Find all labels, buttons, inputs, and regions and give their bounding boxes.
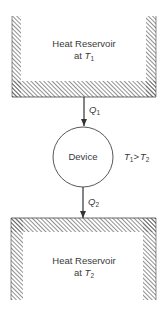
heat-engine-diagram: Heat Reservoir at T1 Q1 Device T1>T2 Q2 … (0, 0, 168, 314)
heat-in-arrow: Q1 (84, 97, 100, 126)
temperature-condition: T1>T2 (124, 151, 150, 163)
heat-out-label: Q2 (88, 196, 99, 208)
hot-reservoir-floor (12, 81, 156, 97)
cold-reservoir: Heat Reservoir at T2 (11, 218, 156, 300)
cold-reservoir-left-wall (11, 218, 23, 300)
device-label: Device (68, 151, 97, 162)
cold-reservoir-title: Heat Reservoir (52, 255, 115, 266)
heat-in-label: Q1 (89, 104, 100, 116)
hot-reservoir-temp: at T1 (74, 50, 94, 62)
cold-reservoir-right-wall (143, 218, 156, 300)
cold-reservoir-temp: at T2 (74, 267, 94, 279)
hot-reservoir-title: Heat Reservoir (52, 38, 115, 49)
heat-out-arrow: Q2 (83, 187, 99, 218)
cold-reservoir-ceiling (11, 218, 156, 232)
hot-reservoir: Heat Reservoir at T1 (12, 16, 156, 97)
device: Device (53, 127, 113, 187)
